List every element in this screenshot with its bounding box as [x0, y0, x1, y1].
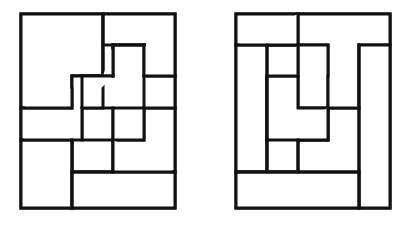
piece-bottom-right-strip — [72, 172, 175, 208]
piece-bottom-bar — [236, 172, 359, 208]
dissection-diagram-svg — [0, 0, 412, 225]
piece-right-column — [359, 45, 390, 208]
puzzle-figure-board — [0, 0, 412, 225]
piece-bottom-strip — [21, 140, 72, 208]
left-figure-cut-line-9 — [113, 108, 144, 140]
right-dissection-figure — [236, 14, 390, 208]
piece-left-column — [236, 45, 267, 172]
left-dissection-figure — [21, 14, 175, 208]
